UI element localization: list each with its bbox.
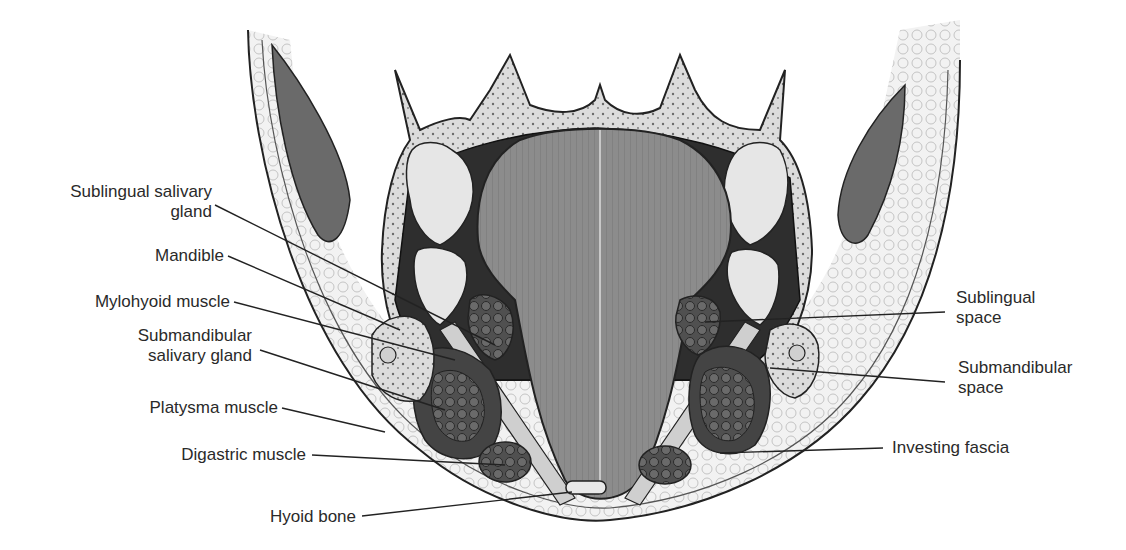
label-line: space (956, 308, 1035, 328)
right-submandibular-gland (700, 367, 754, 441)
label-platysma-muscle: Platysma muscle (0, 398, 278, 418)
label-line: gland (0, 202, 212, 222)
floor-of-mouth-illustration (0, 0, 1126, 550)
label-sublingual-space: Sublingual space (956, 288, 1035, 328)
label-line: Hyoid bone (0, 507, 356, 527)
label-mylohyoid-muscle: Mylohyoid muscle (0, 292, 230, 312)
label-line: space (958, 378, 1072, 398)
label-digastric-muscle: Digastric muscle (0, 445, 306, 465)
label-line: Mylohyoid muscle (0, 292, 230, 312)
label-line: Mandible (0, 246, 224, 266)
label-line: Sublingual (956, 288, 1035, 308)
label-line: salivary gland (0, 346, 252, 366)
anatomy-figure: Sublingual salivary gland Mandible Myloh… (0, 0, 1126, 550)
left-digastric-muscle (479, 442, 531, 482)
label-line: Investing fascia (892, 438, 1009, 458)
label-mandible: Mandible (0, 246, 224, 266)
label-line: Submandibular (0, 326, 252, 346)
label-investing-fascia: Investing fascia (892, 438, 1009, 458)
label-hyoid-bone: Hyoid bone (0, 507, 356, 527)
label-submandibular-salivary-gland: Submandibular salivary gland (0, 326, 252, 366)
right-digastric-muscle (639, 446, 691, 484)
label-line: Sublingual salivary (0, 182, 212, 202)
label-line: Digastric muscle (0, 445, 306, 465)
label-sublingual-salivary-gland: Sublingual salivary gland (0, 182, 212, 222)
label-line: Platysma muscle (0, 398, 278, 418)
label-line: Submandibular (958, 358, 1072, 378)
label-submandibular-space: Submandibular space (958, 358, 1072, 398)
